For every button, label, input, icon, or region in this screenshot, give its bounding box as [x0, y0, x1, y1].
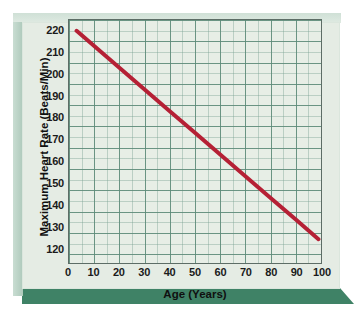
chart-figure: 120130140150160170180190200210220 010203… [0, 0, 355, 329]
x-tick-label: 100 [302, 266, 342, 278]
y-axis-title: Maximum Heart Rate (Beats/Min) [38, 22, 50, 272]
data-series-line [69, 20, 321, 263]
plot-area [68, 19, 322, 264]
x-axis-title: Age (Years) [68, 288, 322, 300]
x-axis-tick-labels: 0102030405060708090100 [68, 266, 322, 284]
